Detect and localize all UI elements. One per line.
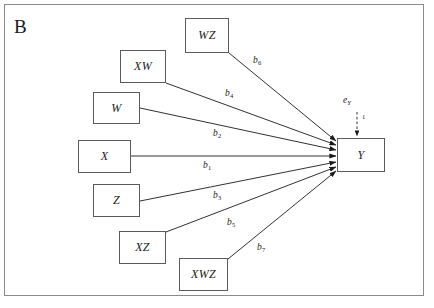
coefficient-subscript: 3 bbox=[218, 194, 221, 201]
error-term-label: eY bbox=[343, 96, 351, 106]
path-arrow-b6 bbox=[229, 53, 336, 141]
node-label: XWZ bbox=[191, 267, 216, 282]
path-arrow-b4 bbox=[166, 83, 336, 145]
path-coefficient-label-b3: b3 bbox=[213, 191, 221, 201]
figure-panel-b: B WZXWWXZXZXWZY b6b4b2b1b3b5b7 eY 1 bbox=[0, 0, 434, 308]
path-coefficient-label-b6: b6 bbox=[253, 56, 261, 66]
path-coefficient-label-b1: b1 bbox=[203, 161, 211, 171]
node-label: Y bbox=[358, 148, 365, 163]
coefficient-subscript: 2 bbox=[218, 132, 221, 139]
path-arrow-b5 bbox=[166, 167, 336, 232]
path-coefficient-label-b4: b4 bbox=[225, 89, 233, 99]
coefficient-subscript: 4 bbox=[230, 92, 233, 99]
node-box-wz: WZ bbox=[185, 18, 229, 53]
coefficient-subscript: 1 bbox=[208, 164, 211, 171]
coefficient-subscript: 5 bbox=[232, 221, 235, 228]
node-label: WZ bbox=[198, 28, 215, 43]
node-box-xz: XZ bbox=[119, 231, 166, 264]
path-arrow-b2 bbox=[140, 108, 336, 150]
path-coefficient-label-b2: b2 bbox=[213, 129, 221, 139]
node-label: XW bbox=[134, 59, 152, 74]
coefficient-subscript: 7 bbox=[262, 246, 265, 253]
node-box-xw: XW bbox=[120, 50, 166, 83]
coefficient-subscript: 6 bbox=[258, 59, 261, 66]
node-box-y: Y bbox=[337, 138, 385, 172]
node-box-w: W bbox=[93, 92, 140, 124]
error-subscript: Y bbox=[347, 99, 351, 106]
node-box-z: Z bbox=[93, 184, 140, 217]
path-coefficient-label-b5: b5 bbox=[227, 218, 235, 228]
node-box-xwz: XWZ bbox=[179, 258, 228, 291]
path-arrow-group bbox=[131, 53, 336, 259]
node-box-x: X bbox=[78, 140, 131, 173]
path-arrow-b7 bbox=[228, 171, 336, 259]
error-unit-loading-label: 1 bbox=[362, 114, 365, 121]
path-coefficient-label-b7: b7 bbox=[257, 243, 265, 253]
node-label: Z bbox=[113, 193, 120, 208]
node-label: W bbox=[111, 101, 121, 116]
node-label: X bbox=[101, 149, 109, 164]
node-label: XZ bbox=[135, 240, 150, 255]
